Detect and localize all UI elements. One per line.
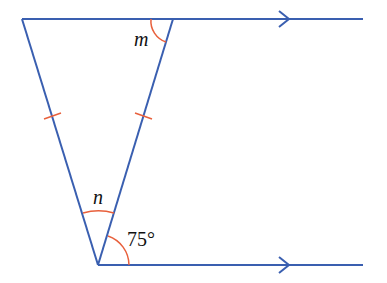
triangle-left-side [22,19,98,265]
label-n: n [93,186,103,209]
label-m: m [134,28,148,51]
angle-arc-m [151,19,166,42]
angle-arc-n [83,211,114,213]
angle-arc-75 [108,236,129,265]
label-75-degrees: 75° [127,228,155,251]
diagram-canvas [0,0,387,283]
